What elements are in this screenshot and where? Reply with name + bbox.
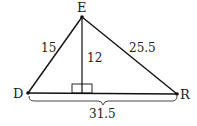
vertex-R-label: R <box>180 87 191 102</box>
triangle-diagram: E D R 15 25.5 12 31.5 <box>0 0 197 126</box>
altitude-length: 12 <box>87 51 102 65</box>
vertex-E-point <box>80 15 84 19</box>
vertex-E-label: E <box>77 0 87 15</box>
side-DR <box>28 93 177 94</box>
vertex-D-point <box>26 91 30 95</box>
side-DE-length: 15 <box>41 41 56 55</box>
side-ER-length: 25.5 <box>129 41 156 55</box>
vertex-D-label: D <box>13 86 23 101</box>
base-brace <box>29 96 177 105</box>
side-DR-length: 31.5 <box>89 107 116 121</box>
vertex-R-point <box>175 92 179 96</box>
side-DE <box>28 17 82 93</box>
